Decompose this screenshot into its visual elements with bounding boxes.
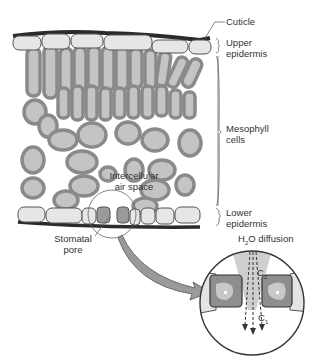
c1-label: C1 — [258, 312, 268, 328]
c2-label: C2 — [257, 267, 267, 283]
upper-epidermis-label-2: epidermis — [226, 48, 267, 59]
palisade-cells — [27, 46, 204, 120]
stomatal-label-2: pore — [48, 244, 98, 255]
stomatal-label-1: Stomatal — [48, 233, 98, 244]
h2o-diffusion-label: H2O diffusion — [238, 233, 293, 249]
lower-epidermis-label-1: Lower — [226, 207, 252, 218]
cuticle-label: Cuticle — [226, 16, 255, 27]
intercellular-label-2: air space — [98, 181, 170, 192]
mesophyll-label-1: Mesophyll — [226, 123, 269, 134]
zoom-arrow — [118, 235, 210, 300]
lower-epidermis-label-2: epidermis — [226, 218, 267, 229]
upper-epidermis-label-1: Upper — [226, 37, 252, 48]
stomata-detail — [195, 250, 310, 355]
intercellular-label-1: Intercellular — [98, 170, 170, 181]
mesophyll-label-2: cells — [226, 134, 245, 145]
